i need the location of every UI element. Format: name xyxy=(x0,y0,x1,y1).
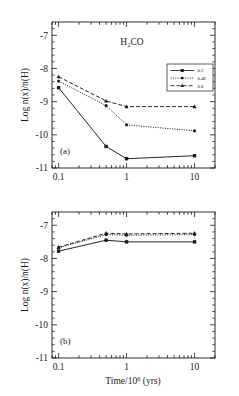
y-tick-label: -8 xyxy=(40,64,48,74)
data-point-square xyxy=(181,69,184,72)
data-point-square xyxy=(193,240,196,243)
data-point-square xyxy=(57,249,60,252)
x-axis-label-part: (yrs) xyxy=(140,376,160,387)
y-tick-label: -9 xyxy=(40,287,48,297)
y-tick-label: -7 xyxy=(40,221,48,231)
data-point-square xyxy=(125,157,128,160)
data-series xyxy=(57,86,196,160)
panel-tag: (a) xyxy=(60,146,70,156)
data-point-circle xyxy=(57,79,60,82)
x-tick-label: 0.1 xyxy=(53,172,65,182)
data-point-circle xyxy=(193,129,196,132)
y-tick-label: -8 xyxy=(40,254,48,264)
data-point-square xyxy=(104,145,107,148)
legend-label-0.48: 0.48 xyxy=(198,76,207,81)
y-tick-label: -9 xyxy=(40,97,48,107)
legend-label-0.2: 0.2 xyxy=(198,68,204,73)
x-axis-label-part: Time/10 xyxy=(105,376,137,386)
data-point-triangle xyxy=(57,75,61,79)
y-tick-label: -10 xyxy=(35,320,48,330)
species-title: H2CO xyxy=(120,37,143,48)
data-point-circle xyxy=(105,104,108,107)
x-axis-label: Time/106 (yrs) xyxy=(105,375,160,387)
chart-panel-b: -7-8-9-10-110.1110Log n(x)/n(H)(b)Time/1… xyxy=(0,190,239,396)
legend-marker-0.2 xyxy=(181,69,184,72)
x-tick-label: 10 xyxy=(190,172,200,182)
panel-a-canvas: -7-8-9-10-110.1110Log n(x)/n(H)(a)H2CO0.… xyxy=(0,0,239,198)
plot-frame xyxy=(52,212,215,358)
panel-tag: (b) xyxy=(60,336,71,346)
data-point-triangle xyxy=(193,231,197,235)
data-point-circle xyxy=(181,77,184,80)
x-tick-label: 0.1 xyxy=(53,362,65,372)
species-title-part: CO xyxy=(130,37,143,47)
data-point-square xyxy=(104,239,107,242)
x-tick-label: 10 xyxy=(190,362,200,372)
data-series xyxy=(57,231,197,249)
chart-panel-a: -7-8-9-10-110.1110Log n(x)/n(H)(a)H2CO0.… xyxy=(0,0,239,198)
x-tick-label: 1 xyxy=(124,172,129,182)
data-point-circle xyxy=(125,123,128,126)
y-tick-label: -11 xyxy=(36,163,49,173)
data-point-square xyxy=(193,154,196,157)
panel-b-canvas: -7-8-9-10-110.1110Log n(x)/n(H)(b)Time/1… xyxy=(0,190,239,396)
series-line-0.2 xyxy=(59,88,195,159)
legend-label-0.8: 0.8 xyxy=(198,84,204,89)
y-tick-label: -7 xyxy=(40,31,48,41)
data-series xyxy=(57,239,196,253)
x-tick-label: 1 xyxy=(124,362,129,372)
y-tick-label: -11 xyxy=(36,353,49,363)
data-point-square xyxy=(57,86,60,89)
y-axis-label: Log n(x)/n(H) xyxy=(20,68,31,122)
data-point-square xyxy=(125,240,128,243)
legend-marker-0.48 xyxy=(181,77,184,80)
y-tick-label: -10 xyxy=(35,130,48,140)
y-axis-label: Log n(x)/n(H) xyxy=(20,258,31,312)
figure-root: -7-8-9-10-110.1110Log n(x)/n(H)(a)H2CO0.… xyxy=(0,0,239,396)
legend-box xyxy=(167,64,213,91)
